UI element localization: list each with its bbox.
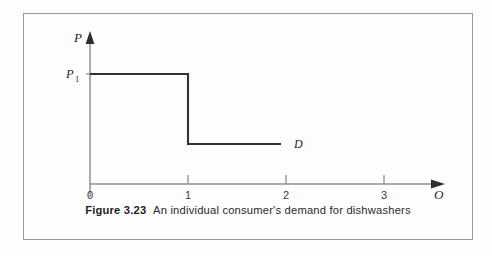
- x-tick-label-1: 1: [185, 189, 191, 199]
- x-axis-tick-labels: 0 1 2 3: [87, 189, 387, 199]
- q-axis: Q: [90, 179, 445, 199]
- demand-curve: D: [90, 74, 303, 151]
- x-axis-ticks: [188, 175, 384, 184]
- price-level-label: P 1: [65, 67, 79, 84]
- figure-page: P Q 0 1 2 3: [0, 0, 492, 256]
- price-label-subscript: 1: [75, 74, 79, 84]
- figure-frame: P Q 0 1 2 3: [23, 13, 473, 240]
- figure-caption-text: An individual consumer's demand for dish…: [153, 204, 411, 216]
- figure-caption: Figure 3.23 An individual consumer's dem…: [24, 204, 472, 216]
- plot-svg: P Q 0 1 2 3: [24, 14, 474, 199]
- figure-caption-label: Figure 3.23: [85, 204, 153, 216]
- x-tick-label-3: 3: [381, 189, 387, 199]
- p-axis-label: P: [73, 30, 82, 45]
- p-axis: P: [73, 30, 94, 197]
- x-tick-label-0: 0: [87, 189, 93, 199]
- demand-curve-label: D: [293, 137, 303, 151]
- price-label-p: P: [65, 67, 74, 81]
- q-axis-label: Q: [434, 187, 444, 199]
- demand-curve-path: [90, 74, 281, 144]
- demand-curve-plot: P Q 0 1 2 3: [24, 14, 474, 199]
- p-axis-arrowhead-icon: [86, 31, 95, 44]
- x-tick-label-2: 2: [283, 189, 289, 199]
